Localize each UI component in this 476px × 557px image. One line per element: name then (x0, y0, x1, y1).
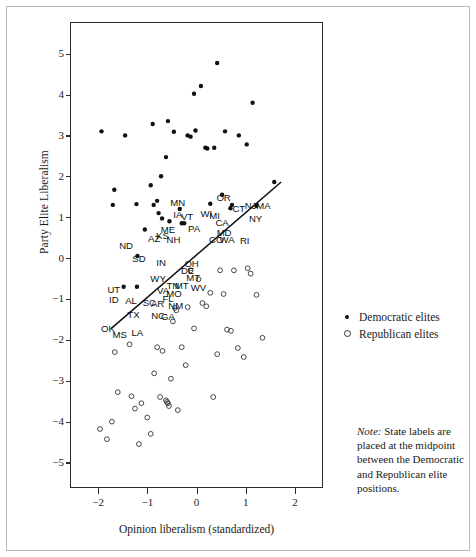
data-point-republican (98, 427, 103, 432)
data-point-democratic (188, 134, 192, 138)
data-point-republican (160, 348, 165, 353)
plot-canvas (71, 23, 322, 487)
state-label-in: IN (156, 258, 166, 268)
y-tick-mark (66, 135, 71, 136)
y-tick-mark (66, 299, 71, 300)
y-tick-mark (66, 176, 71, 177)
x-tick-label: 1 (234, 497, 258, 508)
y-tick-mark (66, 258, 71, 259)
state-label-ga: GA (161, 312, 175, 322)
data-point-republican (139, 401, 144, 406)
state-label-wa: WA (219, 235, 234, 245)
data-point-democratic (167, 219, 171, 223)
data-point-democratic (208, 201, 212, 205)
data-point-republican (167, 404, 172, 409)
data-point-republican (218, 268, 223, 273)
data-point-republican (145, 415, 150, 420)
state-label-me: ME (161, 226, 175, 236)
state-label-ny: NY (249, 214, 262, 224)
data-point-democratic (245, 142, 249, 146)
data-point-republican (215, 352, 220, 357)
data-point-democratic (143, 227, 147, 231)
data-point-republican (115, 390, 120, 395)
state-label-vt: VT (181, 212, 193, 222)
data-point-democratic (159, 174, 163, 178)
data-point-democratic (135, 284, 139, 288)
data-point-democratic (192, 92, 196, 96)
state-label-ma: MA (256, 201, 270, 211)
data-point-democratic (237, 133, 241, 137)
state-label-ut: UT (107, 285, 120, 295)
y-tick-mark (66, 95, 71, 96)
data-point-democratic (123, 133, 127, 137)
state-label-wv: WV (191, 283, 206, 293)
data-point-republican (204, 304, 209, 309)
data-point-democratic (99, 129, 103, 133)
x-axis-tick-labels: −2−1012 (70, 497, 323, 513)
data-point-republican (260, 335, 265, 340)
data-point-republican (137, 442, 142, 447)
data-point-republican (179, 345, 184, 350)
state-label-sd: SD (132, 254, 145, 264)
data-point-republican (155, 345, 160, 350)
data-point-democratic (112, 188, 116, 192)
x-tick-mark (246, 488, 247, 494)
y-tick-mark (66, 381, 71, 382)
data-point-republican (133, 406, 138, 411)
filled-circle-icon (340, 315, 354, 319)
data-point-republican (148, 431, 153, 436)
data-point-republican (158, 395, 163, 400)
data-point-democratic (151, 122, 155, 126)
state-label-ri: RI (240, 236, 250, 246)
figure-note: Note: State labels are placed at the mid… (357, 424, 469, 495)
legend: Democratic elites Republican elites (340, 308, 468, 342)
figure-container: NDSDUTIDOKMSALTXLAAZKSINWYVASCARNCGAFLMO… (0, 0, 476, 557)
state-label-mn: MN (170, 198, 185, 208)
data-point-republican (109, 419, 114, 424)
data-point-democratic (134, 202, 138, 206)
data-point-democratic (166, 119, 170, 123)
data-point-republican (241, 355, 246, 360)
y-tick-label: 5 (38, 48, 64, 59)
state-label-pa: PA (188, 224, 200, 234)
y-axis-title: Party Elite Liberalism (38, 92, 50, 312)
state-label-ms: MS (112, 330, 126, 340)
x-tick-mark (98, 488, 99, 494)
state-label-nm: NM (168, 301, 183, 311)
data-point-democratic (164, 155, 168, 159)
data-point-republican (245, 266, 250, 271)
data-point-republican (221, 292, 226, 297)
data-point-democratic (149, 183, 153, 187)
data-point-republican (127, 342, 132, 347)
y-tick-mark (66, 217, 71, 218)
y-tick-label: −3 (38, 375, 64, 386)
y-tick-mark (66, 422, 71, 423)
data-point-republican (105, 437, 110, 442)
x-tick-label: −1 (135, 497, 159, 508)
y-tick-mark (66, 462, 71, 463)
data-point-republican (183, 363, 188, 368)
plot-panel: NDSDUTIDOKMSALTXLAAZKSINWYVASCARNCGAFLMO… (70, 22, 323, 488)
y-tick-mark (66, 54, 71, 55)
state-label-wy: WY (150, 275, 165, 285)
data-point-republican (254, 292, 259, 297)
x-tick-mark (295, 488, 296, 494)
y-tick-mark (66, 340, 71, 341)
y-tick-label: −2 (38, 334, 64, 345)
state-label-id: ID (109, 295, 119, 305)
data-point-democratic (121, 284, 125, 288)
x-tick-label: −2 (86, 497, 110, 508)
state-label-nd: ND (119, 241, 133, 251)
data-point-republican (248, 271, 253, 276)
note-lead: Note: (357, 425, 381, 437)
data-point-democratic (160, 216, 164, 220)
data-point-republican (129, 394, 134, 399)
state-label-al: AL (125, 297, 137, 307)
y-tick-label: −4 (38, 416, 64, 427)
data-point-democratic (156, 211, 160, 215)
x-tick-label: 2 (283, 497, 307, 508)
legend-label-republican: Republican elites (354, 328, 439, 340)
data-point-republican (169, 376, 174, 381)
data-point-republican (185, 305, 190, 310)
x-tick-label: 0 (185, 497, 209, 508)
